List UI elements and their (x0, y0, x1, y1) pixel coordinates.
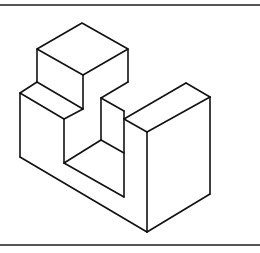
top-block (37, 23, 128, 109)
channel (64, 82, 128, 197)
left-step (20, 82, 83, 163)
isometric-block-drawing (0, 0, 260, 253)
frame-bottom-rule (0, 244, 260, 246)
right-upright (124, 83, 210, 232)
base-front-edge (20, 157, 147, 232)
